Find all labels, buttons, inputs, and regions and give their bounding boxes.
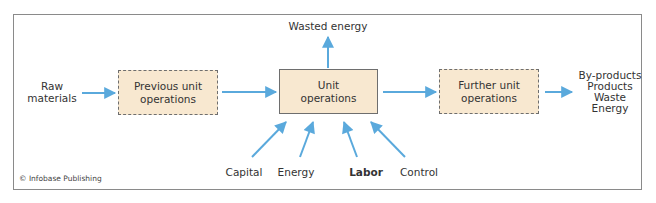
arrow-control-to-unit [371, 122, 405, 157]
further-box-line2: operations [458, 92, 520, 105]
raw-materials-line2: materials [22, 92, 82, 104]
input-energy-label: Energy [271, 166, 321, 178]
unit-box-line2: operations [301, 92, 357, 105]
unit-operations-box: Unit operations [279, 69, 378, 114]
unit-box-line1: Unit [301, 79, 357, 92]
wasted-energy-label: Wasted energy [278, 20, 378, 32]
arrow-energy-to-unit [300, 122, 313, 157]
output-energy: Energy [575, 103, 645, 114]
outputs-label: By-products Products Waste Energy [575, 70, 645, 114]
input-control-label: Control [394, 166, 444, 178]
further-unit-operations-box: Further unit operations [439, 69, 539, 114]
copyright-credit: © Infobase Publishing [19, 174, 102, 183]
raw-materials-line1: Raw [22, 80, 82, 92]
arrow-capital-to-unit [252, 122, 286, 157]
input-capital-label: Capital [219, 166, 269, 178]
further-box-line1: Further unit [458, 79, 520, 92]
previous-unit-operations-box: Previous unit operations [118, 70, 218, 115]
arrow-labor-to-unit [344, 122, 357, 157]
previous-box-line1: Previous unit [134, 80, 202, 93]
previous-box-line2: operations [134, 93, 202, 106]
raw-materials-label: Raw materials [22, 80, 82, 104]
input-labor-label: Labor [341, 166, 391, 178]
